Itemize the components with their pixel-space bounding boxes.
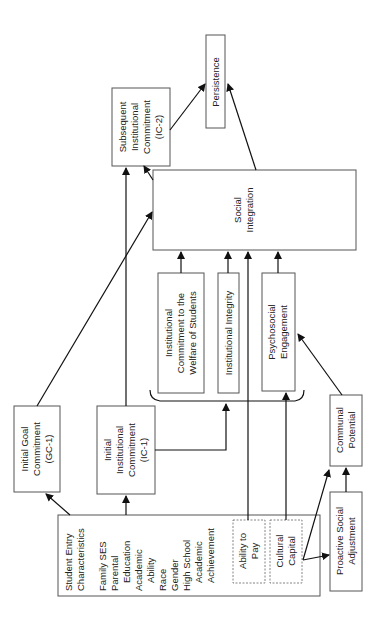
arrow-entry-gc1	[46, 494, 70, 515]
svg-text:Achievement: Achievement	[205, 528, 216, 583]
svg-text:Institutional: Institutional	[163, 309, 174, 357]
svg-text:Commitment: Commitment	[31, 422, 42, 476]
svg-text:Engagement: Engagement	[278, 305, 289, 359]
svg-text:Race: Race	[157, 569, 168, 591]
svg-text:Institutional Integrity: Institutional Integrity	[223, 291, 234, 376]
arrow-ic1-brace	[155, 404, 226, 450]
svg-text:(GC-1): (GC-1)	[43, 434, 54, 463]
svg-text:Institutional: Institutional	[129, 103, 140, 151]
svg-text:Persistence: Persistence	[210, 57, 221, 107]
svg-text:Gender: Gender	[169, 559, 180, 591]
svg-text:Potential: Potential	[346, 412, 357, 449]
svg-text:Commitment: Commitment	[126, 423, 137, 477]
svg-text:Initial Goal: Initial Goal	[19, 427, 30, 472]
persistence-label: Persistence	[210, 57, 221, 107]
integrity-label: Institutional Integrity	[223, 291, 234, 376]
arrow-social-persistence	[228, 84, 256, 170]
svg-text:Pay: Pay	[249, 543, 260, 560]
svg-text:Initial: Initial	[102, 439, 113, 461]
svg-text:Cultural: Cultural	[274, 535, 285, 568]
svg-text:Subsequent: Subsequent	[117, 101, 128, 152]
svg-text:Academic: Academic	[133, 549, 144, 591]
svg-text:Integration: Integration	[244, 188, 255, 233]
svg-text:Characteristics: Characteristics	[75, 528, 86, 591]
svg-text:High School: High School	[181, 540, 192, 591]
svg-text:Communal: Communal	[334, 407, 345, 453]
svg-text:Welfare of Students: Welfare of Students	[187, 291, 198, 375]
svg-text:Institutional: Institutional	[114, 426, 125, 474]
svg-text:Parental: Parental	[109, 556, 120, 591]
svg-text:Education: Education	[121, 541, 132, 583]
svg-text:Ability to: Ability to	[237, 533, 248, 569]
cultural-capital-label: Cultural Capital	[274, 535, 297, 568]
svg-text:(IC-2): (IC-2)	[153, 115, 164, 139]
svg-text:Psychosocial: Psychosocial	[266, 304, 277, 359]
svg-text:Proactive Social: Proactive Social	[334, 507, 345, 575]
arrow-social-ic2	[144, 166, 153, 180]
psychosocial-label: Psychosocial Engagement	[266, 304, 289, 359]
svg-text:Adjustment: Adjustment	[346, 517, 357, 565]
svg-text:Student Entry: Student Entry	[63, 533, 74, 591]
svg-text:(IC-1): (IC-1)	[138, 438, 149, 462]
svg-text:Social: Social	[232, 197, 243, 223]
arrow-communal-psychosocial	[298, 334, 342, 395]
diagram-canvas: Initial Goal Commitment (GC-1) Initial I…	[0, 0, 374, 618]
svg-text:Capital: Capital	[286, 536, 297, 566]
arrow-ic2-persistence	[170, 84, 205, 130]
svg-text:Family SES: Family SES	[97, 541, 108, 591]
svg-text:Commitment: Commitment	[141, 100, 152, 154]
svg-text:Commitment to the: Commitment to the	[175, 293, 186, 373]
svg-text:Ability: Ability	[145, 557, 156, 583]
svg-text:Academic: Academic	[193, 541, 204, 583]
arrow-gc1-social	[37, 212, 152, 406]
communal-label: Communal Potential	[334, 407, 357, 453]
